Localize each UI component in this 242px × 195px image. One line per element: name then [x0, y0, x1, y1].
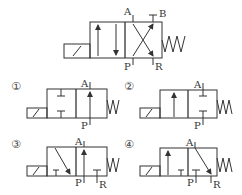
option-1-number: ①	[11, 81, 21, 92]
valve-symbols-drawing	[0, 0, 242, 195]
option-4-valve-symbol	[140, 142, 232, 183]
option-4-port-a-label: A	[186, 138, 193, 148]
option-3-number: ③	[11, 139, 21, 150]
main-port-r-label: R	[155, 62, 163, 72]
option-3-valve-symbol	[27, 141, 119, 183]
main-valve-symbol	[64, 15, 185, 65]
valve-diagram: A B P R ① A P ② A P ③ A P R ④ A P R	[0, 0, 242, 195]
option-2-number: ②	[124, 81, 134, 92]
option-3-port-r-label: R	[99, 180, 107, 190]
option-4-port-p-label: P	[187, 178, 194, 188]
main-port-p-label: P	[124, 62, 131, 72]
option-3-port-a-label: A	[75, 137, 82, 147]
option-4-number: ④	[124, 139, 134, 150]
option-4-port-r-label: R	[213, 180, 221, 190]
option-2-valve-symbol	[140, 83, 232, 125]
option-1-port-p-label: P	[81, 121, 88, 131]
main-port-b-label: B	[159, 9, 166, 19]
option-3-port-p-label: P	[75, 178, 82, 188]
main-port-a-label: A	[124, 7, 131, 17]
option-1-valve-symbol	[27, 82, 119, 125]
option-1-port-a-label: A	[81, 79, 88, 89]
option-2-port-p-label: P	[194, 121, 201, 131]
option-2-port-a-label: A	[194, 80, 201, 90]
